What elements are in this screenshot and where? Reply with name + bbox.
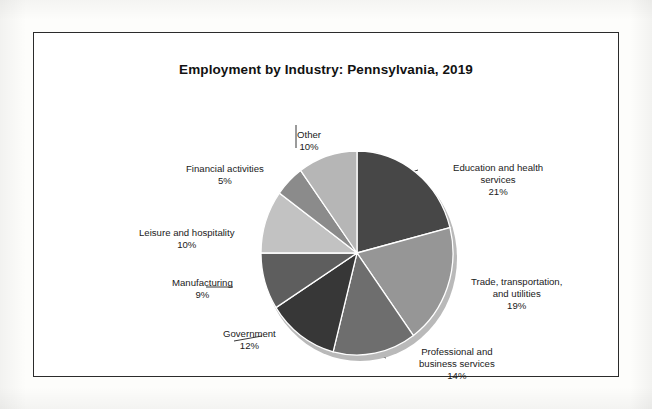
slice-label-other: Other 10% — [297, 129, 321, 153]
slice-label-line2: and utilities — [493, 288, 541, 299]
slice-label-education-and-health-services: Education and health services 21% — [453, 162, 543, 199]
slice-value: 19% — [471, 300, 562, 312]
slice-label-financial-activities: Financial activities 5% — [186, 163, 264, 187]
pie-slices — [260, 150, 454, 356]
slice-label-line1: Education and health — [453, 162, 543, 173]
page-canvas: Employment by Industry: Pennsylvania, 20… — [0, 0, 652, 409]
slice-value: 21% — [453, 186, 543, 198]
slice-label-line2: business services — [419, 358, 495, 369]
slice-label-line1: Trade, transportation, — [471, 276, 562, 287]
slice-value: 5% — [186, 175, 264, 187]
slice-value: 10% — [139, 239, 234, 251]
slice-label-line1: Other — [297, 129, 321, 140]
figure-frame: Employment by Industry: Pennsylvania, 20… — [33, 32, 619, 377]
slice-label-line1: Leisure and hospitality — [139, 227, 234, 238]
chart-title: Employment by Industry: Pennsylvania, 20… — [34, 62, 618, 77]
slice-label-line1: Professional and — [421, 346, 492, 357]
pie-chart — [260, 150, 454, 356]
slice-label-trade-transportation-and-utilities: Trade, transportation, and utilities 19% — [471, 276, 562, 313]
slice-label-line1: Financial activities — [186, 163, 264, 174]
slice-value: 14% — [419, 370, 495, 382]
slice-label-line2: services — [480, 174, 515, 185]
slice-label-line1: Manufacturing — [172, 277, 233, 288]
slice-label-line1: Government — [223, 328, 276, 339]
slice-label-manufacturing: Manufacturing 9% — [172, 277, 233, 301]
slice-value: 12% — [223, 340, 276, 352]
slice-label-professional-and-business-services: Professional and business services 14% — [419, 346, 495, 383]
slice-label-government: Government 12% — [223, 328, 276, 352]
slice-label-leisure-and-hospitality: Leisure and hospitality 10% — [139, 227, 234, 251]
slice-value: 9% — [172, 289, 233, 301]
slice-value: 10% — [297, 141, 321, 153]
